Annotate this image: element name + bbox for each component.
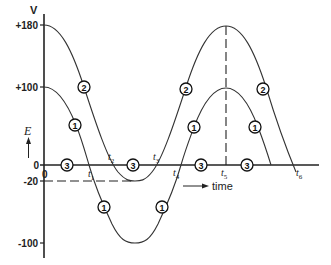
t1-label: t1 (88, 168, 95, 182)
curve-1-label: 1 (249, 121, 261, 133)
curve-1-label: 1 (156, 201, 168, 213)
waveform-chart: V +180 +100 0 0 -20 -100 E 2 2 2 1 1 1 (0, 0, 331, 265)
tick-label-100: +100 (15, 82, 38, 93)
svg-text:3: 3 (64, 161, 69, 171)
e-axis-label: E (23, 124, 32, 138)
tick-label-origin: 0 (42, 169, 48, 180)
curve-2-label: 2 (78, 81, 90, 93)
time-axis-label: time (212, 180, 233, 192)
tick-label-minus-20: -20 (24, 176, 39, 187)
tick-label-0: 0 (33, 160, 39, 171)
curve-2-label: 2 (180, 83, 192, 95)
t3-label: t3 (153, 151, 160, 165)
e-up-arrow-icon (26, 137, 31, 158)
curve-3-label: 3 (195, 159, 207, 171)
svg-text:1: 1 (72, 121, 77, 131)
svg-text:1: 1 (159, 203, 164, 213)
t5-label: t5 (221, 167, 228, 181)
curve-1-label: 1 (69, 119, 81, 131)
svg-text:2: 2 (260, 85, 265, 95)
svg-text:1: 1 (101, 203, 106, 213)
curve-2-label: 2 (257, 83, 269, 95)
curve-3-label: 3 (241, 159, 253, 171)
tick-label-minus-100: -100 (18, 238, 38, 249)
t2-label: t2 (108, 151, 115, 165)
svg-text:1: 1 (191, 123, 196, 133)
svg-text:2: 2 (81, 83, 86, 93)
curve-3-label: 3 (127, 159, 139, 171)
tick-label-180: +180 (15, 20, 38, 31)
time-arrow-icon (183, 184, 209, 189)
t4-label: t4 (173, 167, 180, 181)
svg-text:3: 3 (130, 161, 135, 171)
curve-3-label: 3 (61, 159, 73, 171)
svg-text:3: 3 (244, 161, 249, 171)
svg-text:3: 3 (198, 161, 203, 171)
t6-label: t6 (296, 167, 303, 181)
curve-2 (44, 25, 296, 181)
y-unit-label: V (30, 4, 38, 16)
curve-1-label: 1 (98, 201, 110, 213)
svg-text:2: 2 (183, 85, 188, 95)
svg-text:1: 1 (252, 123, 257, 133)
curve-1-label: 1 (188, 121, 200, 133)
